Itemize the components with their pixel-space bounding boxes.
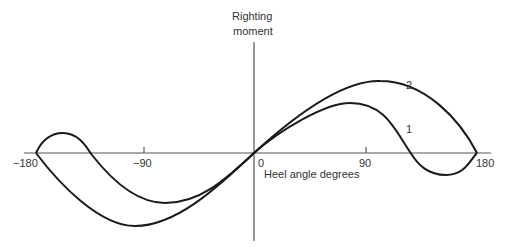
tick-label-neg180: −180 — [13, 157, 38, 169]
tick-label-neg90: −90 — [133, 157, 152, 169]
curve-2-label: 2 — [406, 79, 412, 91]
x-axis-label: Heel angle degrees — [264, 168, 360, 180]
tick-label-0: 0 — [258, 157, 264, 169]
y-axis-label-line2: moment — [233, 25, 273, 37]
tick-label-180: 180 — [476, 157, 494, 169]
curve-1-label: 1 — [406, 123, 412, 135]
y-axis-label-line1: Righting — [232, 10, 272, 22]
stability-curve-diagram: Righting moment Heel angle degrees −180 … — [0, 0, 505, 251]
tick-label-90: 90 — [359, 157, 371, 169]
